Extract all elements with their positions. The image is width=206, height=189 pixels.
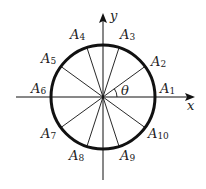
svg-text:A4: A4 [69,27,85,42]
point-label-a10: A10 [147,126,169,141]
point-label-a3: A3 [119,27,135,42]
angle-arc [114,89,117,97]
y-axis-label: y [109,8,118,23]
point-label-a6: A6 [30,81,46,96]
theta-label: θ [121,83,129,98]
point-label-a1: A1 [159,81,175,96]
point-label-a9: A9 [119,148,135,163]
svg-text:A3: A3 [119,27,135,42]
svg-text:A8: A8 [68,148,84,163]
svg-text:A9: A9 [119,148,135,163]
svg-text:A1: A1 [159,81,175,96]
point-label-a8: A8 [68,148,84,163]
svg-text:A5: A5 [40,51,56,66]
point-label-a7: A7 [40,126,56,141]
svg-text:A10: A10 [147,126,169,141]
x-axis-label: x [187,98,195,113]
svg-text:A6: A6 [30,81,46,96]
point-label-a2: A2 [150,54,166,69]
point-label-a4: A4 [69,27,85,42]
svg-text:A7: A7 [40,126,56,141]
svg-text:A2: A2 [150,54,166,69]
point-label-a5: A5 [40,51,56,66]
unit-circle-diagram: x y θ A1 A2 A3 A4 A5 A6 A7 A8 A9 A10 [0,0,206,189]
